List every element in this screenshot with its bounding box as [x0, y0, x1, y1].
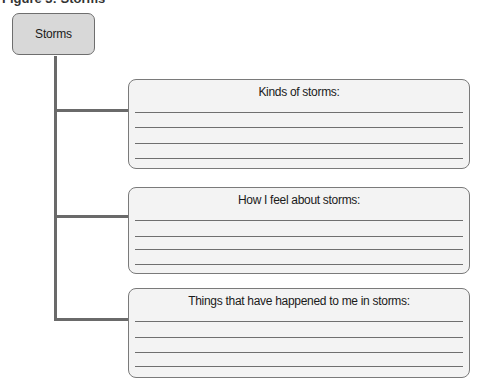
writing-line[interactable]: [135, 158, 463, 159]
writing-line[interactable]: [135, 249, 463, 250]
writing-line[interactable]: [135, 127, 463, 128]
writing-line[interactable]: [135, 112, 463, 113]
section-things-happened: Things that have happened to me in storm…: [128, 288, 470, 378]
writing-line[interactable]: [135, 220, 463, 221]
branch-connector-3: [54, 318, 129, 321]
section-how-i-feel: How I feel about storms:: [128, 187, 470, 274]
branch-connector-1: [54, 109, 129, 112]
figure-heading: Figure 3: Storms: [2, 0, 105, 6]
writing-line[interactable]: [135, 143, 463, 144]
writing-line[interactable]: [135, 236, 463, 237]
writing-line[interactable]: [135, 366, 463, 367]
section-title: How I feel about storms:: [129, 193, 469, 207]
writing-line[interactable]: [135, 337, 463, 338]
branch-connector-2: [54, 215, 129, 218]
section-kinds-of-storms: Kinds of storms:: [128, 79, 470, 169]
section-title: Kinds of storms:: [129, 85, 469, 99]
root-node-label: Storms: [35, 27, 72, 41]
writing-line[interactable]: [135, 264, 463, 265]
section-title: Things that have happened to me in storm…: [129, 294, 469, 308]
writing-line[interactable]: [135, 321, 463, 322]
writing-line[interactable]: [135, 352, 463, 353]
trunk-connector: [54, 56, 57, 320]
root-node-storms: Storms: [12, 13, 95, 55]
